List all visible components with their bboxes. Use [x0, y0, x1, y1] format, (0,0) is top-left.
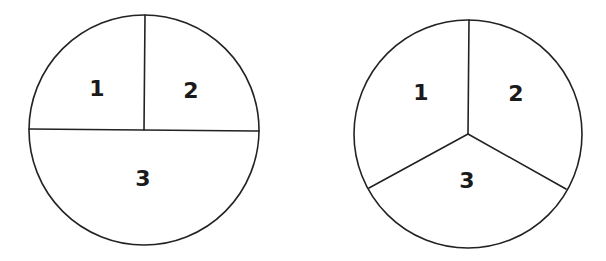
left-circle-diagram: 1 2 3 — [29, 15, 259, 245]
diagram-canvas: 1 2 3 1 2 3 — [0, 0, 606, 261]
left-region-2-label: 2 — [183, 78, 198, 103]
left-region-1-label: 1 — [89, 76, 104, 101]
left-region-3-label: 3 — [135, 166, 150, 191]
right-region-3-label: 3 — [459, 168, 474, 193]
right-top-divider — [468, 20, 469, 134]
right-region-2-label: 2 — [508, 81, 523, 106]
left-vertical-divider — [144, 15, 145, 130]
right-circle-diagram: 1 2 3 — [354, 20, 582, 248]
right-region-1-label: 1 — [413, 80, 428, 105]
